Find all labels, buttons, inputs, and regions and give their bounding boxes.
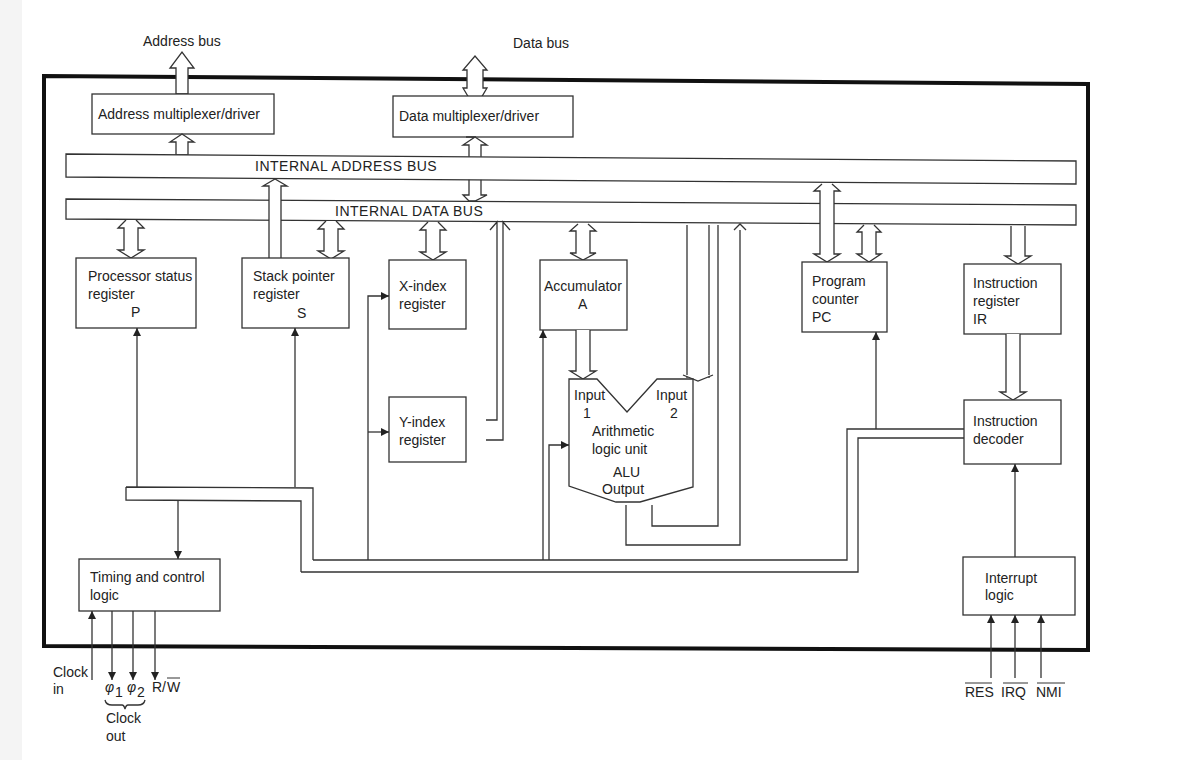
- svg-text:Processor status: Processor status: [88, 268, 192, 284]
- data-bus-arrow: [463, 56, 487, 98]
- internal-address-bus: [66, 154, 1076, 184]
- clock-in-label-2: in: [53, 681, 64, 697]
- svg-text:P: P: [131, 304, 140, 320]
- y-to-data-bus-line: [486, 229, 503, 440]
- svg-text:1: 1: [583, 405, 591, 421]
- svg-text:A: A: [578, 296, 588, 312]
- svg-text:Stack pointer: Stack pointer: [253, 268, 335, 284]
- stack-pointer-register: Stack pointer register S: [242, 258, 349, 328]
- svg-text:R/: R/: [152, 679, 166, 695]
- svg-text:Y-index: Y-index: [399, 414, 445, 430]
- svg-text:RES: RES: [965, 684, 994, 700]
- control-to-alu-line: [549, 445, 569, 560]
- processor-status-register: Processor status register P: [76, 258, 196, 328]
- x-reg-data-bus-arrow: [420, 222, 446, 260]
- internal-data-bus-label: INTERNAL DATA BUS: [335, 203, 483, 219]
- ir-to-decoder-arrow: [1000, 334, 1026, 400]
- nmi-label: NMI: [1036, 683, 1065, 700]
- address-bus-label: Address bus: [143, 33, 221, 49]
- data-mux-label: Data multiplexer/driver: [399, 108, 539, 124]
- svg-text:W: W: [167, 679, 181, 695]
- addr-bus-to-mux-arrow: [170, 134, 194, 155]
- clock-out-label-2: out: [106, 728, 126, 744]
- y-index-register: Y-index register: [389, 397, 466, 462]
- clock-in-label-1: Clock: [53, 664, 89, 680]
- read-write-label: R/ W: [152, 678, 181, 695]
- svg-text:ALU: ALU: [613, 464, 640, 480]
- svg-text:logic unit: logic unit: [592, 441, 647, 457]
- svg-text:Input: Input: [656, 387, 687, 403]
- svg-text:φ: φ: [105, 679, 114, 695]
- y-bus-arrowhead: [490, 222, 510, 230]
- svg-text:logic: logic: [985, 587, 1014, 603]
- svg-text:logic: logic: [90, 587, 119, 603]
- interrupt-logic: Interrupt logic: [963, 557, 1075, 615]
- svg-text:Program: Program: [812, 273, 866, 289]
- svg-text:NMI: NMI: [1036, 684, 1062, 700]
- svg-text:Instruction: Instruction: [973, 413, 1038, 429]
- p-reg-data-bus-arrow: [118, 220, 144, 258]
- accumulator-register: Accumulator A: [540, 260, 627, 330]
- svg-text:PC: PC: [812, 309, 831, 325]
- irq-label: IRQ: [1001, 683, 1028, 700]
- control-to-x-reg-line: [368, 296, 389, 560]
- acc-data-bus-arrow: [570, 224, 596, 260]
- pc-data-bus-arrow: [857, 225, 881, 262]
- svg-text:Instruction: Instruction: [973, 275, 1038, 291]
- clock-out-label-1: Clock: [106, 710, 142, 726]
- svg-text:1: 1: [115, 684, 123, 700]
- clock-out-brace: [105, 700, 145, 709]
- alu-output-bus-arrowhead: [734, 224, 746, 230]
- phi2-label: φ 2: [127, 679, 145, 700]
- res-label: RES: [965, 683, 994, 700]
- address-mux-label: Address multiplexer/driver: [98, 106, 260, 122]
- instruction-register: Instruction register IR: [964, 264, 1061, 334]
- x-index-register: X-index register: [389, 260, 466, 329]
- address-bus-arrow: [170, 52, 194, 94]
- svg-text:φ: φ: [127, 679, 136, 695]
- svg-text:2: 2: [670, 405, 678, 421]
- data-bus-to-y-input-line: [486, 229, 497, 420]
- svg-text:register: register: [399, 432, 446, 448]
- svg-text:2: 2: [137, 684, 145, 700]
- svg-text:IRQ: IRQ: [1001, 684, 1026, 700]
- timing-and-control-logic: Timing and control logic: [79, 559, 220, 611]
- svg-text:decoder: decoder: [973, 431, 1024, 447]
- svg-text:S: S: [297, 305, 306, 321]
- ir-data-bus-arrow: [1005, 226, 1031, 264]
- svg-text:register: register: [973, 293, 1020, 309]
- svg-text:counter: counter: [812, 291, 859, 307]
- svg-text:Timing and control: Timing and control: [90, 569, 205, 585]
- svg-text:register: register: [88, 286, 135, 302]
- internal-data-bus: [66, 199, 1076, 225]
- svg-text:Accumulator: Accumulator: [544, 278, 622, 294]
- phi1-label: φ 1: [105, 679, 123, 700]
- program-counter: Program counter PC: [802, 262, 887, 332]
- svg-text:X-index: X-index: [399, 278, 446, 294]
- svg-text:register: register: [399, 296, 446, 312]
- svg-text:Input: Input: [574, 387, 605, 403]
- svg-text:Output: Output: [602, 481, 644, 497]
- svg-text:register: register: [253, 286, 300, 302]
- svg-text:Interrupt: Interrupt: [985, 570, 1037, 586]
- svg-text:IR: IR: [973, 311, 987, 327]
- data-bus-label: Data bus: [513, 35, 569, 51]
- microprocessor-block-diagram: Address bus Data bus Address multiplexer…: [0, 0, 1188, 760]
- s-reg-data-bus-arrow: [318, 221, 344, 259]
- acc-to-alu-in1-arrow: [570, 330, 596, 379]
- instruction-decoder: Instruction decoder: [964, 400, 1061, 464]
- svg-text:Arithmetic: Arithmetic: [592, 423, 654, 439]
- internal-address-bus-label: INTERNAL ADDRESS BUS: [255, 158, 437, 174]
- arithmetic-logic-unit: Input 1 Input 2 Arithmetic logic unit AL…: [569, 379, 693, 502]
